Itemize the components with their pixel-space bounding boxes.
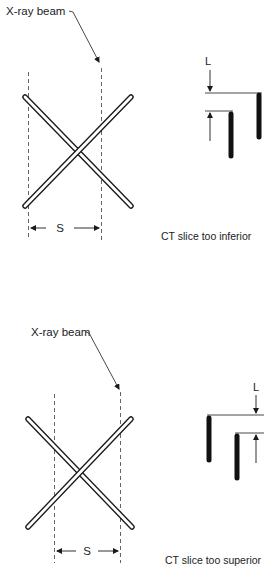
beam-pointer-arrow (86, 332, 119, 389)
beam-label: X-ray beam (31, 326, 90, 338)
offset-label: L (205, 55, 211, 67)
beam-pointer-arrow (69, 11, 99, 62)
panel-caption: CT slice too inferior (161, 230, 252, 242)
offset-label: L (253, 381, 259, 393)
width-label: S (56, 222, 64, 234)
ct-slice-diagram: X-ray beam S L CT slice too inferior X-r… (0, 0, 274, 580)
beam-label: X-ray beam (6, 5, 65, 17)
crossed-rods (25, 97, 131, 206)
panel-inferior: X-ray beam S L CT slice too inferior (6, 5, 262, 242)
crossed-rods (28, 419, 132, 527)
panel-superior: X-ray beam S L CT slice too superior (28, 326, 264, 566)
width-label: S (83, 545, 91, 557)
panel-caption: CT slice too superior (165, 554, 262, 566)
